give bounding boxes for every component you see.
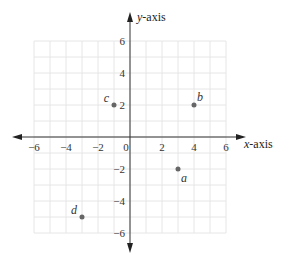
x-tick-label: 4 [191, 141, 197, 153]
y-tick-label: 4 [120, 67, 126, 79]
point-c [112, 103, 117, 108]
y-axis-down-arrow-icon [127, 243, 133, 253]
y-tick-label: −4 [113, 195, 125, 207]
y-tick-label: −2 [113, 163, 125, 175]
x-tick-label: 6 [223, 141, 229, 153]
point-a [176, 167, 181, 172]
point-label-d: d [71, 203, 78, 217]
y-tick-label: −6 [113, 227, 125, 239]
x-tick-label: −4 [60, 141, 72, 153]
x-axis-left-arrow-icon [12, 134, 22, 140]
y-axis-up-arrow-icon [127, 12, 133, 22]
x-tick-label: 2 [159, 141, 165, 153]
y-axis-label-suffix: -axis [142, 10, 166, 24]
y-axis-label: y-axis [136, 10, 166, 24]
point-label-a: a [181, 171, 187, 185]
point-label-c: c [104, 91, 110, 105]
point-label-b: b [197, 90, 203, 104]
x-tick-label: 0 [123, 141, 129, 153]
coordinate-plane: −6−4−20246−6−4−2246 y-axis x-axis abcd [0, 0, 290, 260]
point-b [192, 103, 197, 108]
x-tick-label: −2 [92, 141, 104, 153]
y-tick-label: 2 [120, 99, 126, 111]
x-axis-label: x-axis [243, 137, 273, 151]
point-d [80, 215, 85, 220]
x-tick-label: −6 [28, 141, 40, 153]
data-points: abcd [71, 90, 203, 220]
y-tick-label: 6 [120, 35, 126, 47]
